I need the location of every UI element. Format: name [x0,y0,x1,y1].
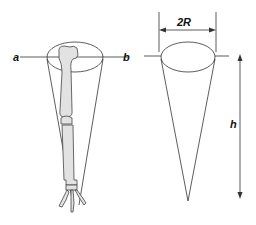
height-dimension [238,54,243,199]
diagram-canvas: a b 2R h [0,0,256,225]
knee [61,116,72,124]
toe-left [59,190,69,207]
tibia [62,125,77,185]
arrow-left-icon [159,28,166,33]
femur [59,46,78,117]
arrow-up-icon [238,54,243,61]
label-h: h [230,118,237,130]
ankle [66,185,77,190]
arrow-right-icon [209,28,216,33]
toe-right [75,190,86,205]
arrow-down-icon [238,192,243,199]
label-b: b [123,51,130,63]
toe-middle [71,190,74,212]
label-2R: 2R [176,16,191,28]
right-cone [144,42,229,201]
label-a: a [13,51,19,63]
